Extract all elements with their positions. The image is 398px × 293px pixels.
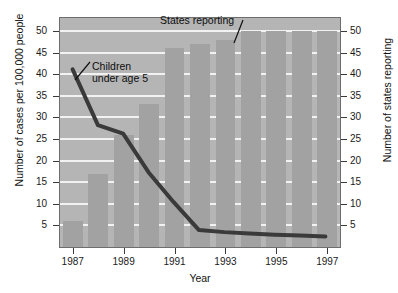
right-axis-tick-label: 10: [350, 199, 372, 209]
annotation-children-under-5: Children under age 5: [92, 60, 148, 84]
left-axis-tick: [53, 182, 59, 183]
right-axis-tick-label: 40: [350, 69, 372, 79]
x-axis-tick-label: 1993: [208, 257, 242, 267]
left-axis-tick-label: 50: [25, 26, 47, 36]
right-axis-tick-label: 15: [350, 177, 372, 187]
x-axis-tick: [73, 248, 74, 254]
x-axis-tick-label: 1997: [310, 257, 344, 267]
x-axis-tick-label: 1995: [259, 257, 293, 267]
right-axis-tick-label: 25: [350, 134, 372, 144]
left-axis-tick-label: 30: [25, 112, 47, 122]
right-axis-tick: [341, 161, 347, 162]
x-axis-tick-label: 1987: [56, 257, 90, 267]
left-axis-tick: [53, 53, 59, 54]
left-axis-tick: [53, 96, 59, 97]
right-axis-tick: [341, 74, 347, 75]
right-axis-title: Number of states reporting: [381, 5, 393, 195]
left-axis-tick-label: 45: [25, 48, 47, 58]
left-axis-tick-label: 25: [25, 134, 47, 144]
left-axis-tick: [53, 31, 59, 32]
x-axis-tick: [175, 248, 176, 254]
right-axis-tick-label: 20: [350, 156, 372, 166]
x-axis-tick-label: 1989: [107, 257, 141, 267]
left-axis-tick-label: 40: [25, 69, 47, 79]
left-axis-tick-label: 35: [25, 91, 47, 101]
plot-area: [59, 17, 341, 248]
chart-figure: 5045403530252015105 Number of cases per …: [0, 0, 398, 293]
right-axis-tick-label: 5: [350, 220, 372, 230]
x-axis-title: Year: [59, 272, 341, 284]
annotation-children-line1: Children: [92, 60, 148, 72]
x-axis-tick-label: 1991: [158, 257, 192, 267]
right-axis-tick: [341, 53, 347, 54]
right-axis-tick-label: 30: [350, 112, 372, 122]
right-axis-tick-label: 45: [350, 48, 372, 58]
left-axis-tick-label: 10: [25, 199, 47, 209]
left-axis-tick: [53, 117, 59, 118]
right-axis-tick: [341, 139, 347, 140]
right-axis-tick: [341, 96, 347, 97]
line-series-children-under-5: [60, 18, 340, 247]
right-axis-tick-label: 50: [350, 26, 372, 36]
right-axis-tick-label: 35: [350, 91, 372, 101]
left-axis-title: Number of cases per 100,000 people: [13, 5, 25, 195]
left-axis-tick: [53, 161, 59, 162]
annotation-children-line2: under age 5: [92, 72, 148, 84]
right-axis-tick: [341, 31, 347, 32]
right-axis-tick: [341, 204, 347, 205]
left-axis-tick: [53, 225, 59, 226]
left-axis-tick-label: 5: [25, 220, 47, 230]
x-axis-tick: [327, 248, 328, 254]
left-axis-tick-label: 20: [25, 156, 47, 166]
right-axis-tick: [341, 225, 347, 226]
annotation-states-reporting: States reporting: [160, 14, 234, 26]
x-axis-tick: [225, 248, 226, 254]
left-axis-tick: [53, 139, 59, 140]
left-axis-tick: [53, 74, 59, 75]
x-axis-tick: [124, 248, 125, 254]
left-axis-tick-label: 15: [25, 177, 47, 187]
right-axis-tick: [341, 117, 347, 118]
left-axis-tick: [53, 204, 59, 205]
right-axis-tick: [341, 182, 347, 183]
x-axis-tick: [276, 248, 277, 254]
